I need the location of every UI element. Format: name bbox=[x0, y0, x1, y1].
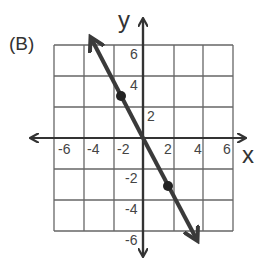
x-tick: -6 bbox=[58, 141, 71, 157]
y-tick: 4 bbox=[130, 77, 138, 93]
x-axis-label: x bbox=[242, 141, 254, 168]
x-tick: 2 bbox=[164, 141, 172, 157]
x-tick: -4 bbox=[87, 141, 100, 157]
y-tick: 2 bbox=[147, 108, 155, 124]
data-point bbox=[163, 181, 173, 191]
x-tick: -2 bbox=[117, 141, 130, 157]
y-axis-label: y bbox=[118, 6, 130, 33]
y-tick: -6 bbox=[125, 232, 138, 248]
y-tick: -4 bbox=[125, 201, 138, 217]
coordinate-plane: -6 -4 -2 2 4 6 6 4 2 -2 -4 -6 y x bbox=[0, 0, 273, 266]
y-tick: -2 bbox=[125, 170, 138, 186]
y-tick: 6 bbox=[130, 46, 138, 62]
data-point bbox=[116, 91, 126, 101]
x-tick: 6 bbox=[223, 141, 231, 157]
x-tick: 4 bbox=[194, 141, 202, 157]
